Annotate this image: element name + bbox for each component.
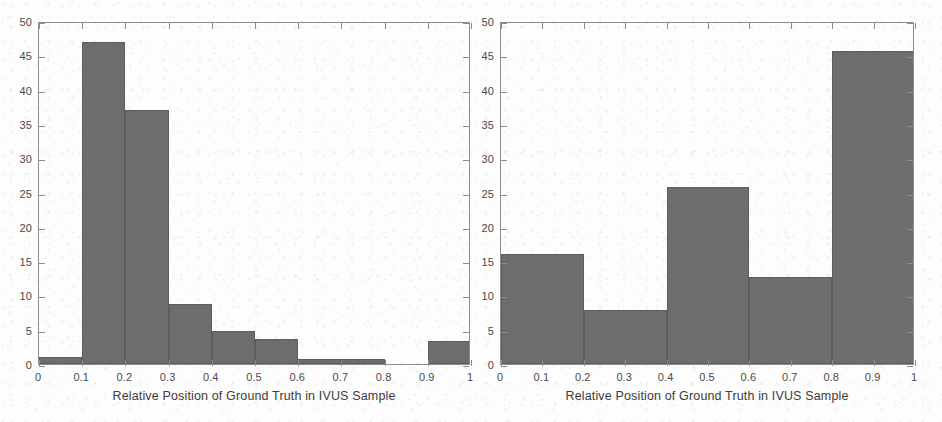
x-axis-tick-mirror [385,23,386,29]
x-axis-tick-mirror [625,23,626,29]
y-axis-tick-mirror [463,92,469,93]
y-axis-tick-label: 20 [20,222,32,234]
y-axis-tick-mirror [463,57,469,58]
y-axis-tick-label: 45 [20,50,32,62]
y-axis-tick-mirror [907,229,913,230]
x-axis-tick-label: 0.8 [823,371,839,383]
histogram-bar [584,310,667,364]
y-axis-tick-label: 30 [482,153,494,165]
histogram-bar [255,339,298,364]
histogram-panel-right: 0510152025303540455000.10.20.30.40.50.60… [471,0,942,422]
x-axis-tick [39,360,40,366]
x-axis-tick-label: 0.1 [73,371,89,383]
x-axis-tick-mirror [471,23,472,29]
y-axis-tick-label: 45 [482,50,494,62]
y-axis-tick-mirror [907,332,913,333]
y-axis-tick-mirror [907,263,913,264]
y-axis-tick [39,297,45,298]
x-axis-tick-mirror [169,23,170,29]
y-axis-tick-mirror [907,160,913,161]
x-axis-tick-label: 0.8 [376,371,392,383]
x-axis-tick-label: 0.5 [699,371,715,383]
x-axis-tick [212,360,213,366]
y-axis-tick [501,92,507,93]
x-axis-tick [832,360,833,366]
x-axis-tick [542,360,543,366]
x-axis-tick [428,360,429,366]
x-axis-tick [625,360,626,366]
x-axis-tick-label: 1 [911,371,917,383]
y-axis-tick-label: 10 [482,290,494,302]
y-axis-tick-label: 40 [482,85,494,97]
x-axis-tick [501,360,502,366]
y-axis-tick [501,229,507,230]
x-axis-tick-mirror [39,23,40,29]
y-axis-tick-mirror [907,57,913,58]
x-axis-tick-label: 0.9 [419,371,435,383]
y-axis-tick [39,126,45,127]
y-axis-tick-label: 35 [20,119,32,131]
x-axis-tick-label: 0.2 [117,371,133,383]
x-axis-tick-mirror [255,23,256,29]
x-axis-tick-mirror [915,23,916,29]
bars-container-left [39,23,469,364]
x-axis-tick [298,360,299,366]
histogram-bar [169,304,212,364]
y-axis-tick-label: 5 [488,325,494,337]
x-axis-tick-label: 0.7 [333,371,349,383]
x-axis-tick-mirror [542,23,543,29]
y-axis-tick-mirror [463,366,469,367]
x-axis-tick-label: 0 [497,371,503,383]
x-axis-tick-mirror [428,23,429,29]
x-axis-tick-mirror [125,23,126,29]
y-axis-tick-mirror [907,297,913,298]
x-axis-tick [341,360,342,366]
plot-area-right [500,22,914,365]
histogram-bar [428,341,469,364]
histogram-bar [298,359,341,364]
x-axis-tick-mirror [874,23,875,29]
x-axis-tick-label: 0.2 [575,371,591,383]
y-axis-tick-label: 15 [482,256,494,268]
histogram-panel-left: 0510152025303540455000.10.20.30.40.50.60… [0,0,471,422]
histogram-bar [749,277,832,364]
y-axis-tick-label: 25 [20,188,32,200]
y-axis-tick [39,263,45,264]
y-axis-tick [39,92,45,93]
x-axis-tick-label: 0.1 [534,371,550,383]
y-axis-tick-label: 10 [20,290,32,302]
y-axis-tick [501,57,507,58]
histogram-bar [667,187,750,364]
y-axis-tick-label: 35 [482,119,494,131]
y-axis-tick [501,332,507,333]
y-axis-tick-label: 20 [482,222,494,234]
x-axis-tick-mirror [82,23,83,29]
x-axis-tick-label: 0.4 [203,371,219,383]
y-axis-tick [39,57,45,58]
x-axis-tick-mirror [708,23,709,29]
x-axis-tick [791,360,792,366]
figure-canvas: 0510152025303540455000.10.20.30.40.50.60… [0,0,942,422]
x-axis-tick-mirror [832,23,833,29]
y-axis-tick-label: 5 [26,325,32,337]
histogram-bar [39,357,82,364]
y-axis-tick-label: 50 [20,16,32,28]
histogram-bar [341,359,384,364]
bars-container-right [501,23,913,364]
x-axis-title-left: Relative Position of Ground Truth in IVU… [38,389,470,403]
y-axis-tick-mirror [907,92,913,93]
x-axis-tick [82,360,83,366]
y-axis-tick-mirror [463,195,469,196]
y-axis-tick-label: 50 [482,16,494,28]
x-axis-tick-mirror [791,23,792,29]
y-axis-tick-mirror [463,263,469,264]
x-axis-tick-mirror [501,23,502,29]
x-axis-tick-label: 0.3 [160,371,176,383]
x-axis-tick-mirror [667,23,668,29]
y-axis-tick [39,195,45,196]
x-axis-tick [915,360,916,366]
y-axis-tick-label: 25 [482,188,494,200]
y-axis-tick-mirror [907,366,913,367]
y-axis-tick-label: 40 [20,85,32,97]
y-axis-tick-mirror [463,126,469,127]
